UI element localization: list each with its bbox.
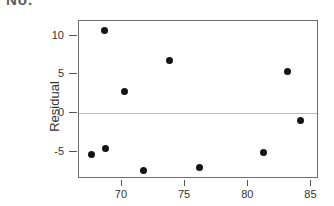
y-axis-tick-label: 5 xyxy=(32,67,64,79)
clipped-header-text: No. xyxy=(6,0,126,7)
data-point xyxy=(260,149,267,156)
y-axis-tick xyxy=(69,151,77,152)
y-axis-tick xyxy=(69,112,77,113)
x-axis-tick xyxy=(121,180,122,186)
data-point xyxy=(101,27,108,34)
zero-reference-line xyxy=(79,113,317,114)
x-axis-tick xyxy=(310,180,311,186)
x-axis-tick-label: 85 xyxy=(304,188,316,200)
y-axis-tick-label: 0 xyxy=(32,106,64,118)
data-point xyxy=(121,88,128,95)
x-axis-tick xyxy=(184,180,185,186)
data-point xyxy=(102,145,109,152)
data-point xyxy=(140,167,147,174)
x-axis-tick xyxy=(247,180,248,186)
data-point xyxy=(196,164,203,171)
data-point xyxy=(284,68,291,75)
data-point xyxy=(88,151,95,158)
plot-area xyxy=(78,20,318,178)
y-axis-tick-label: -5 xyxy=(32,145,64,157)
data-point xyxy=(297,117,304,124)
residual-scatter-figure: No. Residual 1050-5 70758085 xyxy=(0,0,334,206)
y-axis-tick-label: 10 xyxy=(32,29,64,41)
x-axis-tick-label: 75 xyxy=(178,188,190,200)
data-point xyxy=(166,57,173,64)
x-axis-tick-label: 70 xyxy=(115,188,127,200)
y-axis-tick xyxy=(69,73,77,74)
x-axis-tick-label: 80 xyxy=(241,188,253,200)
y-axis-tick xyxy=(69,35,77,36)
